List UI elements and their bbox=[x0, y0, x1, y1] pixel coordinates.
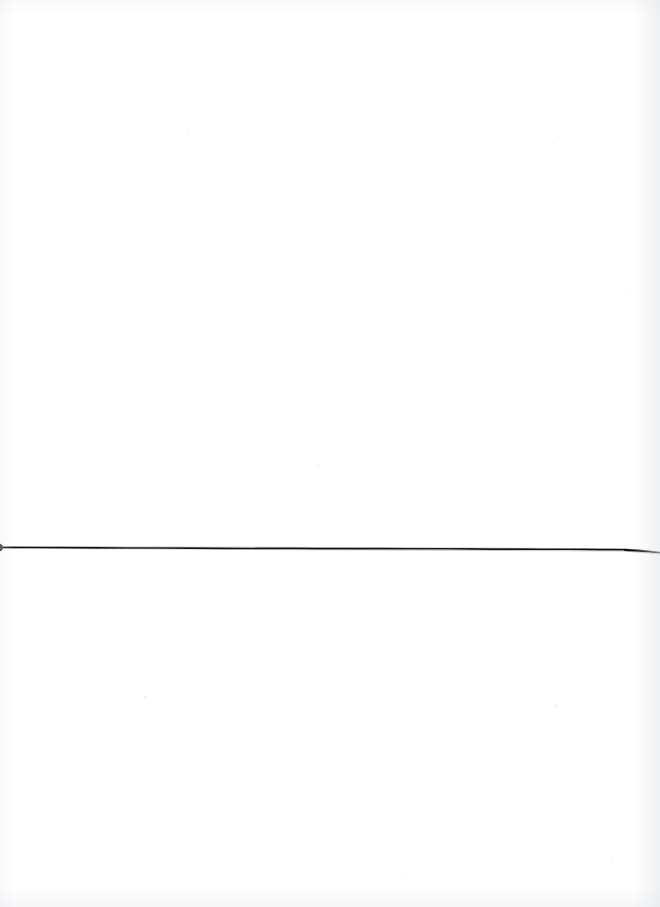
paper-background bbox=[0, 0, 660, 907]
scanned-page: Blank white scanned page with a single t… bbox=[0, 0, 660, 907]
